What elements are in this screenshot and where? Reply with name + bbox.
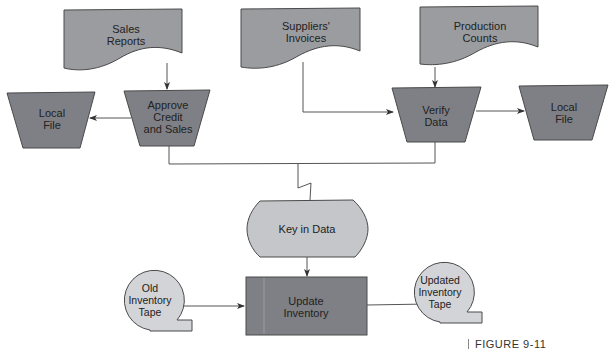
node-old-inventory-tape: Old Inventory Tape	[120, 282, 180, 318]
label: and Sales	[133, 123, 203, 135]
label: Updated	[410, 274, 470, 286]
node-local-file-right: Local File	[534, 101, 594, 125]
node-approve-credit: Approve Credit and Sales	[133, 99, 203, 135]
label: Invoices	[266, 32, 346, 44]
figure-label-bar	[468, 339, 469, 349]
label: Old	[120, 282, 180, 294]
edge-communication-link	[298, 164, 311, 200]
label: Suppliers'	[266, 20, 346, 32]
node-key-in-data: Key in Data	[262, 223, 352, 235]
edge-invoices-to-verify	[303, 62, 393, 112]
label: File	[22, 119, 82, 131]
label: Tape	[120, 306, 180, 318]
label: Verify	[406, 104, 466, 116]
node-suppliers-invoices: Suppliers' Invoices	[266, 20, 346, 44]
node-sales-reports: Sales Reports	[86, 23, 166, 47]
label: Production	[435, 20, 525, 32]
label: Inventory	[266, 307, 346, 319]
label: Reports	[86, 35, 166, 47]
figure-label-text: FIGURE 9-11	[475, 338, 546, 350]
label: Data	[406, 116, 466, 128]
node-local-file-left: Local File	[22, 107, 82, 131]
label: Counts	[435, 32, 525, 44]
node-update-inventory: Update Inventory	[266, 295, 346, 319]
label: Local	[22, 107, 82, 119]
label: Update	[266, 295, 346, 307]
label: Key in Data	[262, 223, 352, 235]
node-verify-data: Verify Data	[406, 104, 466, 128]
label: Approve	[133, 99, 203, 111]
label: Credit	[133, 111, 203, 123]
node-updated-inventory-tape: Updated Inventory Tape	[410, 274, 470, 310]
label: Local	[534, 101, 594, 113]
label: Inventory	[410, 286, 470, 298]
label: Sales	[86, 23, 166, 35]
label: File	[534, 113, 594, 125]
label: Inventory	[120, 294, 180, 306]
label: Tape	[410, 298, 470, 310]
figure-label: FIGURE 9-11	[468, 338, 546, 350]
edge-merge-bus	[169, 142, 435, 164]
node-production-counts: Production Counts	[435, 20, 525, 44]
